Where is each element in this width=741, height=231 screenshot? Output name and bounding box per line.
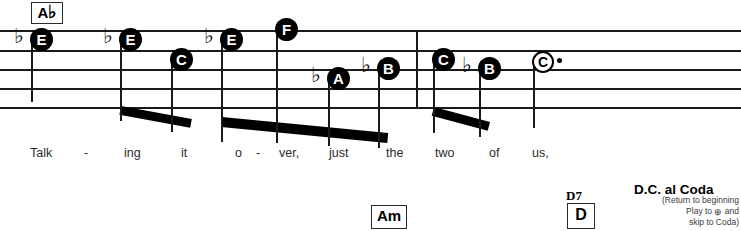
flat-accidental-icon: ♭ — [311, 65, 321, 86]
lyric-syllable-9: two — [435, 146, 454, 160]
beam-group-3 — [432, 107, 490, 131]
chord-root-label: Am — [377, 207, 401, 224]
note-stem — [378, 69, 380, 148]
notehead-b: B — [377, 57, 400, 80]
note-stem — [171, 60, 173, 132]
chord-am[interactable]: Am — [371, 205, 407, 229]
chord-ab[interactable]: A♭ — [31, 2, 63, 24]
lyric-syllable-6: ver, — [279, 146, 299, 160]
chord-root-label: D — [575, 206, 587, 223]
lyric-syllable-8: the — [386, 146, 403, 160]
notehead-e: E — [220, 28, 243, 51]
lyric-syllable-3: it — [181, 146, 187, 160]
lyric-syllable-10: of — [489, 146, 499, 160]
staff-line-4 — [0, 88, 741, 90]
note-stem — [276, 30, 278, 143]
notehead-f: F — [275, 18, 298, 41]
notehead-c: C — [432, 48, 455, 71]
staff-line-5 — [0, 107, 741, 109]
flat-accidental-icon: ♭ — [361, 55, 371, 76]
augmentation-dot — [557, 58, 562, 63]
note-stem — [31, 40, 33, 102]
lyric-hyphen-5: - — [256, 146, 260, 160]
flat-accidental-icon: ♭ — [14, 26, 24, 47]
chord-d[interactable]: D — [567, 203, 595, 229]
direction-note-line-3: skip to Coda) — [634, 217, 739, 228]
notehead-c: C — [170, 48, 193, 71]
direction-note-line-1: (Return to beginning — [634, 195, 739, 206]
coda-sign-icon: ⊕ — [714, 208, 722, 217]
chord-flat-icon: ♭ — [48, 2, 56, 22]
lyric-syllable-11: us, — [532, 146, 549, 160]
notehead-c: C — [532, 51, 554, 73]
beam-group-2 — [221, 117, 388, 143]
note-stem — [120, 40, 122, 121]
beam-group-1 — [119, 106, 192, 128]
flat-accidental-icon: ♭ — [462, 55, 472, 76]
lyric-syllable-7: just — [329, 146, 348, 160]
sheet-music-page: ♭E♭EC♭EF♭A♭BC♭BC A♭AmDD7 Talk-ingito-ver… — [0, 0, 741, 231]
flat-accidental-icon: ♭ — [103, 26, 113, 47]
lyric-syllable-2: ing — [124, 146, 141, 160]
flat-accidental-icon: ♭ — [204, 26, 214, 47]
staff-line-2 — [0, 50, 741, 52]
chord-root-label: A — [38, 4, 49, 21]
dc-al-coda-description: (Return to beginningPlay to ⊕ andskip to… — [634, 195, 739, 227]
notehead-e: E — [30, 28, 53, 51]
note-stem — [328, 79, 330, 146]
notehead-e: E — [119, 28, 142, 51]
notehead-b: B — [478, 57, 501, 80]
lyric-syllable-0: Talk — [30, 146, 52, 160]
lyric-syllable-4: o — [235, 146, 242, 160]
note-stem — [479, 69, 481, 137]
notehead-a: A — [327, 67, 350, 90]
chord-symbol-d7: D7 — [566, 188, 582, 204]
lyric-hyphen-1: - — [84, 146, 88, 160]
barline-1 — [416, 30, 418, 109]
note-stem — [221, 40, 223, 142]
direction-note-line-2: Play to ⊕ and — [634, 206, 739, 217]
note-stem — [433, 60, 435, 133]
